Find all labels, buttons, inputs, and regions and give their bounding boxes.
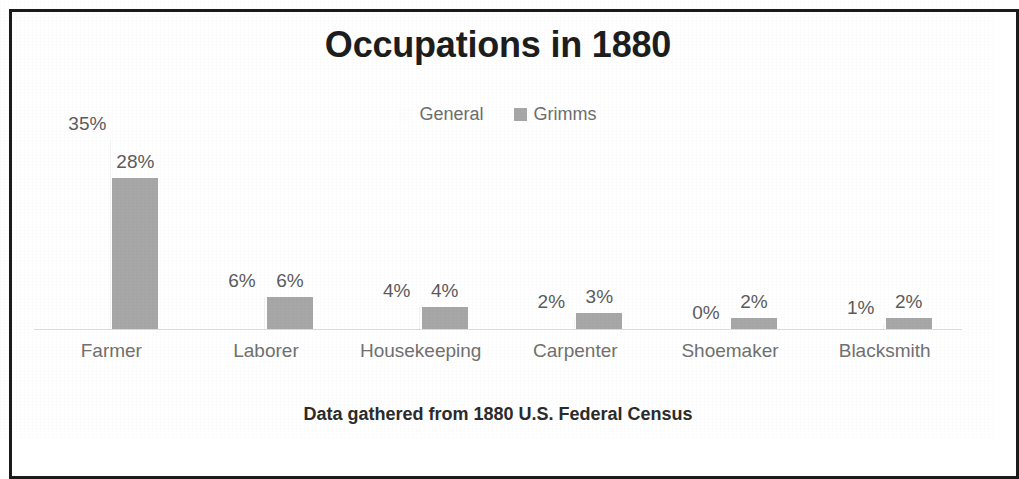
chart-footer-caption: Data gathered from 1880 U.S. Federal Cen… xyxy=(0,404,996,425)
bar-rect xyxy=(528,318,575,329)
bar-grimms: 4% xyxy=(422,140,468,329)
bar-general: 1% xyxy=(838,140,884,329)
bar-group: 1%2% xyxy=(807,140,962,329)
bar-rect xyxy=(218,297,265,329)
bar-general: 2% xyxy=(528,140,574,329)
bar-general: 35% xyxy=(64,140,110,329)
category-label-blacksmith: Blacksmith xyxy=(807,340,962,362)
legend-label-grimms: Grimms xyxy=(534,104,597,125)
bar-value-label: 2% xyxy=(895,291,922,313)
category-axis-line xyxy=(34,329,962,330)
legend-swatch-grimms-icon xyxy=(514,108,527,121)
bar-value-label: 6% xyxy=(276,270,303,292)
bar-group: 35%28% xyxy=(34,140,189,329)
bar-value-label: 4% xyxy=(383,280,410,302)
bar-group: 0%2% xyxy=(653,140,808,329)
legend-item-general: General xyxy=(399,104,483,125)
bar-value-label: 2% xyxy=(538,291,565,313)
bar-rect xyxy=(576,313,622,329)
bar-grimms: 28% xyxy=(112,140,158,329)
chart-legend: General Grimms xyxy=(0,104,996,125)
bar-value-label: 35% xyxy=(68,113,106,135)
bar-grimms: 2% xyxy=(731,140,777,329)
chart-title: Occupations in 1880 xyxy=(0,24,996,66)
category-label-carpenter: Carpenter xyxy=(498,340,653,362)
bar-general: 4% xyxy=(374,140,420,329)
bar-grimms: 2% xyxy=(886,140,932,329)
bar-value-label: 4% xyxy=(431,280,458,302)
bar-value-label: 0% xyxy=(692,302,719,324)
bar-group: 2%3% xyxy=(498,140,653,329)
bar-value-label: 1% xyxy=(847,297,874,319)
bar-rect xyxy=(373,307,420,329)
bar-rect xyxy=(64,140,111,329)
bar-rect xyxy=(837,324,884,329)
legend-item-grimms: Grimms xyxy=(514,104,597,125)
bar-group: 6%6% xyxy=(189,140,344,329)
legend-label-general: General xyxy=(419,104,483,125)
bar-rect xyxy=(112,178,158,329)
bar-general: 6% xyxy=(219,140,265,329)
bar-rect xyxy=(731,318,777,329)
category-label-laborer: Laborer xyxy=(189,340,344,362)
category-axis-labels: FarmerLaborerHousekeepingCarpenterShoema… xyxy=(34,340,962,370)
bar-rect xyxy=(422,307,468,329)
category-label-housekeeping: Housekeeping xyxy=(343,340,498,362)
bar-general: 0% xyxy=(683,140,729,329)
bar-group: 4%4% xyxy=(343,140,498,329)
bar-rect xyxy=(886,318,932,329)
bar-grimms: 3% xyxy=(576,140,622,329)
legend-swatch-general-icon xyxy=(399,108,412,121)
bar-rect xyxy=(267,297,313,329)
plot-area: 35%28%6%6%4%4%2%3%0%2%1%2% xyxy=(34,140,962,330)
bar-value-label: 2% xyxy=(740,291,767,313)
category-label-shoemaker: Shoemaker xyxy=(653,340,808,362)
bar-grimms: 6% xyxy=(267,140,313,329)
bar-value-label: 28% xyxy=(116,151,154,173)
bar-value-label: 3% xyxy=(586,286,613,308)
bar-value-label: 6% xyxy=(228,270,255,292)
category-label-farmer: Farmer xyxy=(34,340,189,362)
